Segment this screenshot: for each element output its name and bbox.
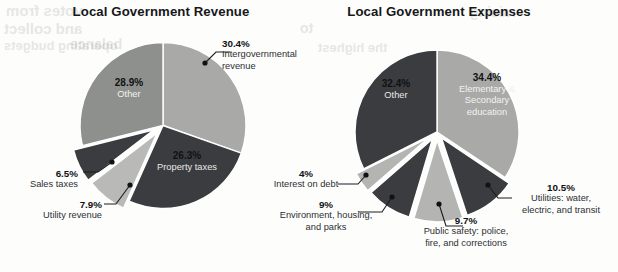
leader-dot — [363, 172, 368, 177]
callout-text: Utilities: water,electric, and transit — [522, 193, 600, 214]
slice-label-other-inside-label: 32.4%Other — [357, 78, 435, 101]
callout-percent: 4% — [258, 168, 354, 179]
callout-environment-housing-parks-callout: 9%Environment, housing,and parks — [264, 199, 388, 233]
callout-percent: 10.5% — [504, 182, 618, 193]
figure-page: votes fromand collectbalanceoperating bu… — [0, 0, 618, 272]
callout-utilities-callout: 10.5%Utilities: water,electric, and tran… — [504, 182, 618, 216]
leader-dot — [485, 182, 490, 187]
callout-public-safety-callout: 9.7%Public safety: police,fire, and corr… — [404, 215, 528, 249]
callout-percent: 9% — [264, 199, 388, 210]
slice-percent: 32.4% — [357, 78, 435, 90]
slice-percent: 34.4% — [440, 72, 534, 84]
callout-interest-on-debt-callout: 4%Interest on debt — [258, 168, 354, 191]
callout-text: Environment, housing,and parks — [280, 210, 373, 231]
callout-percent: 9.7% — [404, 215, 528, 226]
slice-label-education-inside-label: 34.4%Elementary &Secondaryeducation — [440, 72, 534, 118]
slice-name: Other — [384, 90, 407, 100]
leader-dot — [389, 194, 394, 199]
callout-text: Public safety: police,fire, and correcti… — [424, 226, 509, 247]
slice-name: Elementary &Secondaryeducation — [459, 84, 515, 117]
leader-dot — [436, 201, 441, 206]
callout-text: Interest on debt — [274, 179, 339, 189]
